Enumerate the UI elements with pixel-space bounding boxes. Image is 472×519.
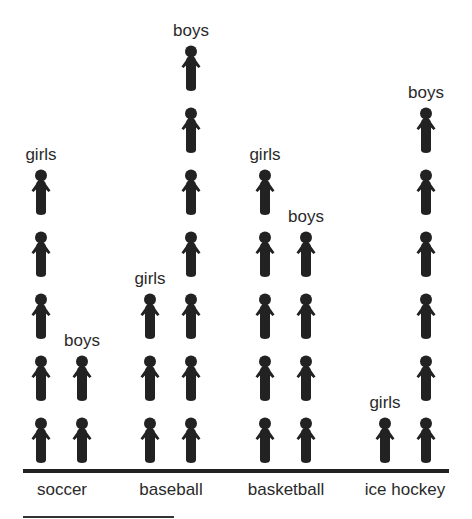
person-icon	[253, 355, 277, 401]
person-icon	[29, 231, 53, 277]
person-icon	[179, 45, 203, 91]
x-axis-baseline	[23, 469, 449, 473]
series-label-boys: boys	[408, 83, 444, 103]
person-icon	[70, 355, 94, 401]
person-icon	[294, 231, 318, 277]
person-icon	[70, 417, 94, 463]
person-icon	[253, 293, 277, 339]
person-icon	[29, 293, 53, 339]
person-icon	[29, 417, 53, 463]
series-label-girls: girls	[369, 393, 400, 413]
person-icon	[253, 169, 277, 215]
person-icon	[253, 231, 277, 277]
pictograph-chart: girlsboysgirlsboysgirlsboysgirlsboys soc…	[0, 0, 472, 519]
category-label-soccer: soccer	[37, 480, 87, 500]
series-label-boys: boys	[64, 331, 100, 351]
person-icon	[179, 355, 203, 401]
person-icon	[294, 417, 318, 463]
series-label-girls: girls	[134, 269, 165, 289]
person-icon	[138, 417, 162, 463]
person-icon	[179, 231, 203, 277]
person-icon	[179, 293, 203, 339]
series-label-girls: girls	[25, 145, 56, 165]
person-icon	[138, 293, 162, 339]
series-label-boys: boys	[173, 21, 209, 41]
person-icon	[294, 293, 318, 339]
person-icon	[414, 355, 438, 401]
category-label-baseball: baseball	[139, 480, 202, 500]
person-icon	[414, 293, 438, 339]
person-icon	[414, 417, 438, 463]
category-label-ice-hockey: ice hockey	[365, 480, 445, 500]
person-icon	[29, 169, 53, 215]
person-icon	[414, 231, 438, 277]
category-label-basketball: basketball	[248, 480, 325, 500]
person-icon	[294, 355, 318, 401]
person-icon	[138, 355, 162, 401]
person-icon	[253, 417, 277, 463]
person-icon	[179, 417, 203, 463]
person-icon	[29, 355, 53, 401]
series-label-boys: boys	[288, 207, 324, 227]
person-icon	[179, 169, 203, 215]
series-label-girls: girls	[249, 145, 280, 165]
footer-divider	[23, 516, 174, 518]
person-icon	[179, 107, 203, 153]
person-icon	[373, 417, 397, 463]
person-icon	[414, 107, 438, 153]
person-icon	[414, 169, 438, 215]
